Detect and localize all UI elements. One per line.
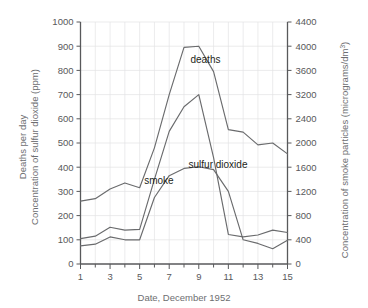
y-axis-right-tick-label: 800 <box>296 210 312 221</box>
y-axis-left-tick-label: 300 <box>58 186 74 197</box>
y-axis-right-tick-label: 3200 <box>296 89 317 100</box>
y-axis-right-title: Concentration of smoke particles (microg… <box>339 42 350 258</box>
x-axis-tick-label: 11 <box>223 271 233 282</box>
y-axis-right-tick-label: 1600 <box>296 162 317 173</box>
y-axis-left-tick-labels: 01002003004005006007008009001000 <box>52 16 73 269</box>
series-label-deaths: deaths <box>190 54 220 65</box>
y-axis-left-title-line1: Deaths per day <box>17 115 28 180</box>
y-axis-left-tick-label: 0 <box>68 258 73 269</box>
y-axis-right-tick-label: 3600 <box>296 65 317 76</box>
y-axis-right-tick-label: 0 <box>296 258 301 269</box>
smog-chart-svg: 01002003004005006007008009001000 0400800… <box>0 0 368 308</box>
y-axis-right-title-close: ) <box>339 42 350 45</box>
y-axis-right-tick-label: 4400 <box>296 16 317 27</box>
series-label-sulfur-dioxide: sulfur dioxide <box>189 159 248 170</box>
x-axis-tick-label: 3 <box>107 271 112 282</box>
x-axis-title: Date, December 1952 <box>138 292 231 303</box>
x-axis-tick-label: 7 <box>167 271 172 282</box>
y-axis-left-tick-label: 400 <box>58 162 74 173</box>
y-axis-left-tick-label: 1000 <box>52 16 73 27</box>
y-axis-right-tick-labels: 040080012001600200024003200360040004400 <box>296 16 317 269</box>
x-axis-tick-label: 1 <box>78 271 83 282</box>
y-axis-left-title-line2: Concentration of sulfur dioxide (ppm) <box>29 69 40 225</box>
y-axis-left-tick-label: 200 <box>58 210 74 221</box>
y-axis-left-tick-label: 600 <box>58 113 74 124</box>
x-axis-tick-label: 9 <box>196 271 201 282</box>
chart-container: 01002003004005006007008009001000 0400800… <box>0 0 368 308</box>
x-axis-tick-label: 13 <box>253 271 264 282</box>
y-axis-left-tick-label: 100 <box>58 234 74 245</box>
x-axis-tick-labels: 13579111315 <box>78 271 293 282</box>
x-axis-tick-label: 15 <box>282 271 293 282</box>
series-annotations: deathssulfur dioxidesmoke <box>144 54 248 186</box>
y-axis-right-tick-label: 1200 <box>296 186 317 197</box>
y-axis-right-title-main: Concentration of smoke particles (microg… <box>339 76 350 258</box>
series-label-smoke: smoke <box>144 175 174 186</box>
y-axis-left-tick-label: 700 <box>58 89 74 100</box>
y-axis-left-tick-label: 900 <box>58 41 74 52</box>
y-axis-left-tick-label: 800 <box>58 65 74 76</box>
y-axis-right-title-tail: ms/dm <box>339 49 350 78</box>
x-axis-tick-label: 5 <box>137 271 142 282</box>
y-axis-right-tick-label: 400 <box>296 234 312 245</box>
y-axis-left-tick-label: 500 <box>58 137 74 148</box>
y-axis-right-tick-label: 4000 <box>296 41 317 52</box>
y-axis-right-tick-label: 2400 <box>296 113 317 124</box>
y-axis-right-tick-label: 2000 <box>296 137 317 148</box>
